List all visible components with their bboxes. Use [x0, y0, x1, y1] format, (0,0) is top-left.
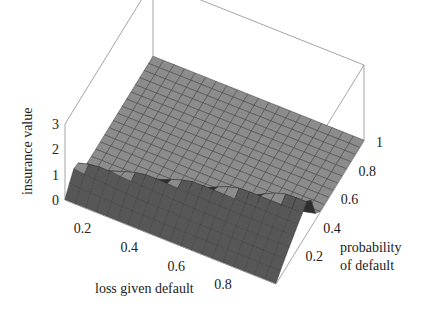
box-edge-top-back [153, 0, 364, 65]
z-tick-label: 3 [52, 117, 59, 132]
y-tick-label: 0.8 [358, 164, 376, 179]
y-tick-label: 0.6 [341, 192, 359, 207]
x-axis-label: loss given default [95, 281, 194, 296]
surface-plot: 0.20.40.60.80.20.40.60.810123 insurance … [0, 0, 422, 311]
y-axis-label-line2: of default [340, 258, 394, 273]
z-tick-label: 1 [52, 168, 59, 183]
y-tick-label: 0.2 [306, 249, 324, 264]
x-tick-label: 0.2 [74, 221, 92, 236]
x-tick-label: 0.8 [214, 277, 232, 292]
y-axis-label-line1: probability [340, 240, 401, 255]
x-tick-label: 0.4 [121, 240, 139, 255]
z-tick-label: 0 [52, 193, 59, 208]
z-tick-label: 2 [52, 142, 59, 157]
y-tick-label: 0.4 [323, 221, 341, 236]
x-tick-label: 0.6 [167, 259, 185, 274]
z-axis-label: insurance value [20, 108, 35, 195]
y-tick-label: 1 [376, 135, 383, 150]
